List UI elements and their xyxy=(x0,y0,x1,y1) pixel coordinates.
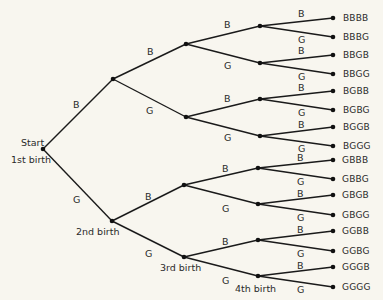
outcome-label: GBGG xyxy=(342,210,370,220)
outcome-label: BBBG xyxy=(343,32,369,42)
branch-label: G xyxy=(224,61,231,71)
branch-label: B xyxy=(224,20,231,30)
outcome-label: GBGB xyxy=(342,190,369,200)
branch-label: B xyxy=(147,47,154,57)
branch-label: B xyxy=(297,261,304,271)
outcome-label: GGGB xyxy=(342,262,370,272)
outcome-label: BGBB xyxy=(343,86,369,96)
branch-label: G xyxy=(73,195,80,205)
branch-label: G xyxy=(298,35,305,45)
branch-label: G xyxy=(297,249,304,259)
branch-label: G xyxy=(222,276,229,286)
outcome-label: BBGB xyxy=(343,50,369,60)
outcome-label: BGBG xyxy=(343,105,370,115)
branch-label: B xyxy=(297,225,304,235)
branch-label: B xyxy=(145,192,152,202)
branch-label: G xyxy=(224,133,231,143)
branch-label: B xyxy=(298,46,305,56)
fourth-birth-label: 4th birth xyxy=(235,284,276,294)
branch-label: G xyxy=(145,249,152,259)
branch-label: B xyxy=(297,189,304,199)
outcome-label: BBGG xyxy=(343,69,370,79)
branch-label: B xyxy=(222,237,229,247)
branch-label: G xyxy=(146,106,153,116)
branch-label: B xyxy=(222,164,229,174)
branch-label: B xyxy=(298,83,305,93)
first-birth-label: 1st birth xyxy=(11,155,51,165)
branch-label: G xyxy=(298,72,305,82)
branch-label: G xyxy=(222,204,229,214)
outcome-label: GGGG xyxy=(342,282,371,292)
outcome-label: GGBB xyxy=(342,226,369,236)
outcome-label: BBBB xyxy=(343,13,369,23)
third-birth-label: 3rd birth xyxy=(160,263,201,273)
start-label: Start xyxy=(21,138,44,148)
branch-label: G xyxy=(297,213,304,223)
outcome-label: GBBG xyxy=(342,174,369,184)
branch-label: B xyxy=(73,100,80,110)
second-birth-label: 2nd birth xyxy=(76,227,119,237)
outcome-label: BGGG xyxy=(343,141,371,151)
outcome-label: BGGB xyxy=(343,122,370,132)
branch-label: B xyxy=(224,94,231,104)
branch-label: B xyxy=(297,153,304,163)
branch-label: G xyxy=(297,285,304,295)
branch-label: G xyxy=(298,108,305,118)
outcome-label: GBBB xyxy=(342,155,368,165)
tree-lines xyxy=(0,0,383,300)
branch-label: G xyxy=(297,177,304,187)
outcome-label: GGBG xyxy=(342,246,370,256)
branch-label: B xyxy=(298,120,305,130)
branch-label: B xyxy=(298,9,305,19)
